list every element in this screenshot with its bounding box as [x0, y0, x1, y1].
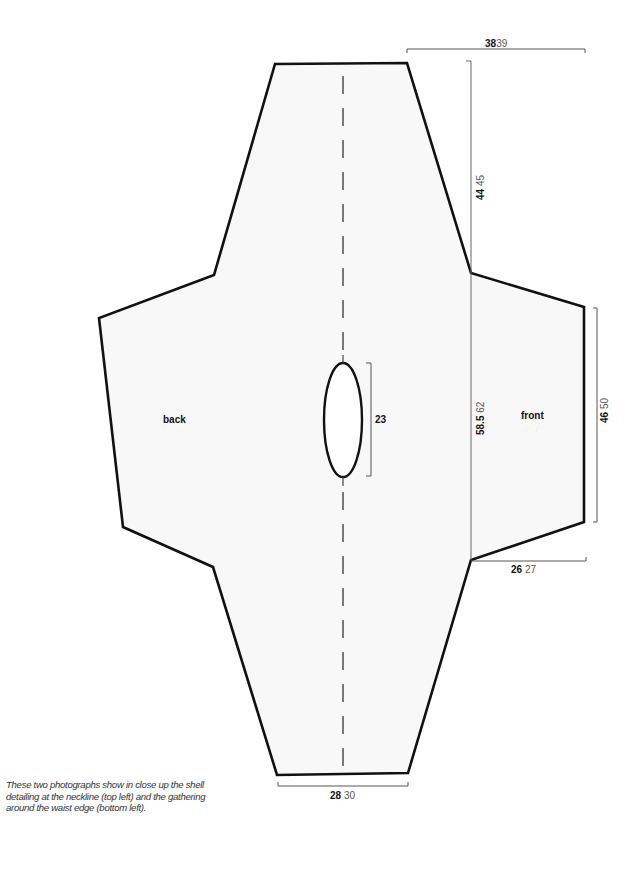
- top-width-dimension: [407, 49, 585, 53]
- sleeve-width-alt: 27: [525, 564, 536, 575]
- shoulder-drop-label: 44 45: [475, 175, 486, 200]
- piece-label-front: front: [521, 410, 544, 421]
- piece-label-back: back: [163, 414, 186, 425]
- top-width-label: 3839: [485, 38, 507, 49]
- body-length-label: 58.5 62: [475, 402, 486, 435]
- side-height-alt: 50: [599, 398, 610, 409]
- bottom-width-dimension: [278, 782, 408, 786]
- bottom-width-label: 28 30: [330, 790, 355, 801]
- side-height-dimension: [593, 308, 597, 522]
- neck-opening-primary: 23: [375, 414, 386, 425]
- sleeve-width-dimension: [471, 557, 586, 561]
- neck-opening: [324, 363, 362, 477]
- neck-opening-label: 23: [375, 414, 386, 425]
- bottom-width-alt: 30: [344, 790, 355, 801]
- top-width-primary: 38: [485, 38, 496, 49]
- side-height-primary: 46: [599, 412, 610, 423]
- body-length-alt: 62: [475, 402, 486, 413]
- pattern-diagram: [0, 0, 642, 876]
- bottom-width-primary: 28: [330, 790, 341, 801]
- photo-caption: These two photographs show in close up t…: [6, 779, 206, 814]
- body-length-primary: 58.5: [475, 416, 486, 435]
- shoulder-drop-primary: 44: [475, 189, 486, 200]
- sleeve-width-primary: 26: [511, 564, 522, 575]
- top-width-alt: 39: [496, 38, 507, 49]
- side-height-label: 46 50: [599, 398, 610, 423]
- shoulder-drop-alt: 45: [475, 175, 486, 186]
- sleeve-width-label: 26 27: [511, 564, 536, 575]
